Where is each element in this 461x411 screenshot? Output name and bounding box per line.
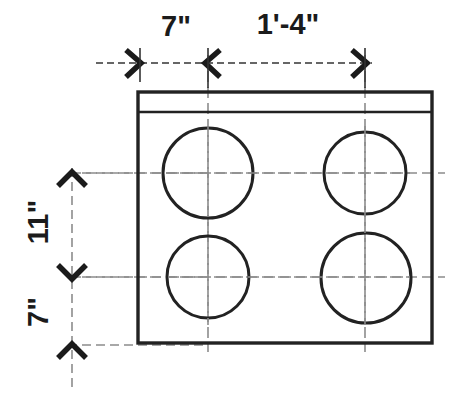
holes-group bbox=[163, 128, 411, 323]
centerlines-group bbox=[70, 55, 445, 352]
centerlines-overlay-group bbox=[168, 126, 410, 325]
block-outline-group bbox=[138, 92, 432, 343]
hole-bottom-right bbox=[321, 233, 411, 323]
horizontal-dimension-group bbox=[96, 48, 372, 88]
witness-ticks-horizontal bbox=[140, 48, 365, 88]
dimension-labels-group: 7" 1'-4" 11" 7" bbox=[22, 8, 319, 327]
dimension-label-11in-vertical: 11" bbox=[22, 200, 54, 244]
dimension-label-7in-vertical: 7" bbox=[22, 297, 54, 327]
dimension-label-1ft4in-horizontal: 1'-4" bbox=[257, 8, 320, 40]
dimension-drawing-svg: 7" 1'-4" 11" 7" bbox=[0, 0, 461, 411]
technical-drawing-canvas: 7" 1'-4" 11" 7" bbox=[0, 0, 461, 411]
block-outer-rect bbox=[138, 92, 432, 343]
dimension-label-7in-horizontal: 7" bbox=[161, 10, 191, 42]
